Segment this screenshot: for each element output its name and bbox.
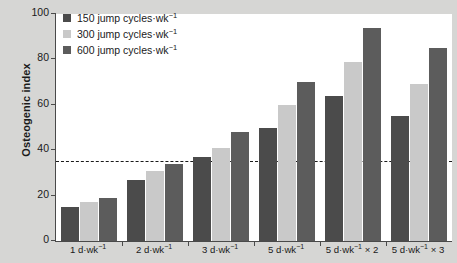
legend-label: 150 jump cycles·wk−1 <box>77 12 177 24</box>
legend-swatch-icon <box>63 30 71 38</box>
x-axis-tick-labels: 1 d·wk−12 d·wk−13 d·wk−15 d·wk−15 d·wk−1… <box>55 244 451 255</box>
bar[interactable] <box>146 171 164 241</box>
y-axis-tick-label: 20 <box>37 188 49 200</box>
bar[interactable] <box>259 128 277 242</box>
bar[interactable] <box>80 202 98 241</box>
bar[interactable] <box>61 207 79 241</box>
x-axis-tick-label: 5 d·wk−1 × 2 <box>319 244 385 255</box>
x-axis-tick-label: 2 d·wk−1 <box>121 244 187 255</box>
bar-group <box>386 14 452 241</box>
bar[interactable] <box>325 96 343 241</box>
x-axis-tick-label: 5 d·wk−1 × 3 <box>385 244 451 255</box>
bar-group <box>320 14 386 241</box>
legend-swatch-icon <box>63 46 71 54</box>
x-axis-tick-label: 5 d·wk−1 <box>253 244 319 255</box>
bar[interactable] <box>212 148 230 241</box>
legend-label: 600 jump cycles·wk−1 <box>77 44 177 56</box>
bar[interactable] <box>165 164 183 241</box>
y-axis-tick-label: 80 <box>37 51 49 63</box>
y-axis-tick-label: 40 <box>37 142 49 154</box>
bar[interactable] <box>127 180 145 241</box>
y-axis-tick-label: 0 <box>43 233 49 245</box>
bar[interactable] <box>231 132 249 241</box>
legend-label: 300 jump cycles·wk−1 <box>77 28 177 40</box>
bar[interactable] <box>363 28 381 241</box>
bar[interactable] <box>344 62 362 241</box>
bar[interactable] <box>391 116 409 241</box>
bar[interactable] <box>193 157 211 241</box>
legend-item[interactable]: 600 jump cycles·wk−1 <box>63 42 177 57</box>
legend-swatch-icon <box>63 14 71 22</box>
bar-group <box>254 14 320 241</box>
x-axis-tick-label: 3 d·wk−1 <box>187 244 253 255</box>
bar[interactable] <box>99 198 117 241</box>
bar[interactable] <box>297 82 315 241</box>
y-axis-title: Osteogenic index <box>20 40 32 180</box>
bar[interactable] <box>410 84 428 241</box>
y-axis-tick-label: 100 <box>31 6 49 18</box>
y-axis-tick-label: 60 <box>37 97 49 109</box>
legend-item[interactable]: 150 jump cycles·wk−1 <box>63 10 177 25</box>
bar-chart: Osteogenic index 020406080100 1 d·wk−12 … <box>0 0 457 263</box>
legend: 150 jump cycles·wk−1300 jump cycles·wk−1… <box>63 10 177 58</box>
x-axis-tick-label: 1 d·wk−1 <box>55 244 121 255</box>
legend-item[interactable]: 300 jump cycles·wk−1 <box>63 26 177 41</box>
bar-group <box>188 14 254 241</box>
bar[interactable] <box>278 105 296 241</box>
bar[interactable] <box>429 48 447 241</box>
